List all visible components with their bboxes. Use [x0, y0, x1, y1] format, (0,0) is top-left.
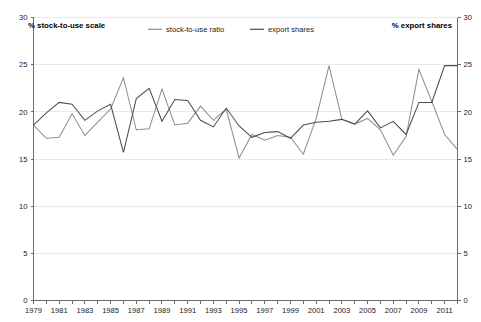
- y-tick-label-left: 5: [23, 249, 27, 258]
- x-axis-ticks: 1979198119831985198719891991199319951997…: [25, 301, 457, 316]
- x-tick-label: 1989: [154, 306, 171, 315]
- y-tick-label-left: 0: [23, 296, 27, 305]
- x-tick-label: 2003: [333, 306, 350, 315]
- y-tick-label-right: 5: [464, 249, 468, 258]
- legend-label-stock-to-use-ratio: stock-to-use ratio: [166, 25, 224, 34]
- x-tick-label: 1995: [231, 306, 248, 315]
- y-tick-label-right: 0: [464, 296, 468, 305]
- legend: stock-to-use ratioexport shares: [148, 25, 314, 34]
- y-axis-left-caption: % stock-to-use scale: [28, 21, 106, 30]
- y-tick-label-left: 15: [19, 155, 27, 164]
- y-tick-label-right: 20: [464, 108, 472, 117]
- x-tick-label: 1991: [179, 306, 196, 315]
- y-tick-label-left: 25: [19, 60, 27, 69]
- x-tick-label: 1979: [25, 306, 42, 315]
- x-tick-label: 1993: [205, 306, 222, 315]
- x-tick-label: 1985: [102, 306, 119, 315]
- x-tick-label: 1997: [256, 306, 273, 315]
- y-tick-label-left: 20: [19, 108, 27, 117]
- chart-container: 051015202530 051015202530 19791981198319…: [0, 0, 481, 322]
- y-tick-label-right: 15: [464, 155, 472, 164]
- x-tick-label: 1987: [128, 306, 145, 315]
- x-tick-label: 2001: [308, 306, 325, 315]
- y-tick-label-left: 10: [19, 202, 27, 211]
- x-tick-label: 2011: [436, 306, 452, 315]
- y-tick-label-right: 10: [464, 202, 472, 211]
- x-tick-label: 1983: [76, 306, 93, 315]
- series-line-export-shares: [34, 66, 458, 153]
- line-chart: 051015202530 051015202530 19791981198319…: [0, 0, 481, 322]
- legend-label-export-shares: export shares: [268, 25, 314, 34]
- x-tick-label: 2007: [385, 306, 402, 315]
- y-tick-label-left: 30: [19, 13, 27, 22]
- y-tick-label-right: 30: [464, 13, 472, 22]
- x-tick-label: 2005: [359, 306, 376, 315]
- y-tick-label-right: 25: [464, 60, 472, 69]
- gridlines: [34, 18, 458, 254]
- x-tick-label: 2009: [411, 306, 428, 315]
- x-tick-label: 1999: [282, 306, 299, 315]
- y-axis-right-ticks: 051015202530: [458, 13, 472, 305]
- y-axis-left-ticks: 051015202530: [19, 13, 33, 305]
- y-axis-right-caption: % export shares: [392, 21, 453, 30]
- x-tick-label: 1981: [51, 306, 68, 315]
